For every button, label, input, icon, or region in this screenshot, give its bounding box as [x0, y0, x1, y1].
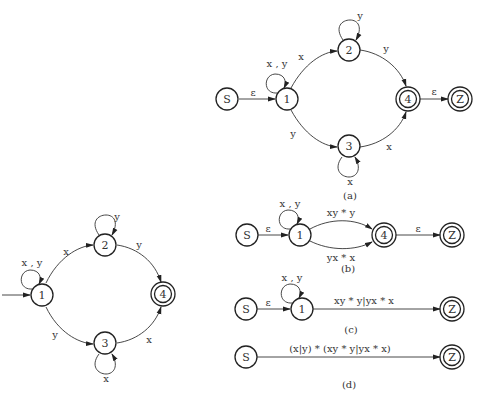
edge-1-4-bottom — [310, 241, 372, 249]
state-3-label: 3 — [346, 140, 353, 153]
edge-1-4-bottom-label: yx * x — [326, 252, 356, 263]
edge-1-2 — [46, 245, 93, 283]
automaton-b: S 1 4 Z ε x , y xy * y yx * x ε (b) — [236, 198, 464, 274]
state-Z-label: Z — [448, 229, 456, 242]
edge-2-4-label: y — [135, 239, 142, 250]
left-automaton: 1 2 3 4 x , y x y y y x x — [2, 211, 175, 384]
edge-2-4 — [360, 50, 406, 86]
caption-c: (c) — [344, 324, 358, 335]
edge-4-Z-label: ε — [431, 86, 436, 97]
state-S-label: S — [243, 229, 251, 242]
edge-S-1-label: ε — [265, 223, 270, 234]
edge-1-2-label: x — [298, 51, 304, 62]
caption-b: (b) — [341, 263, 355, 274]
loop-2-label: y — [113, 211, 120, 222]
state-S-label: S — [223, 93, 231, 106]
edge-1-Z-label: xy * y|yx * x — [334, 295, 394, 307]
loop-1-label: x , y — [280, 198, 301, 209]
loop-3-label: x — [103, 373, 109, 384]
edge-S-Z-label: (x|y) * (xy * y|yx * x) — [289, 343, 391, 355]
edge-1-3 — [291, 110, 337, 147]
loop-3 — [95, 354, 115, 374]
state-S-label: S — [242, 303, 250, 316]
loop-3 — [338, 157, 358, 177]
edge-1-4-top — [310, 221, 372, 229]
loop-2 — [339, 20, 359, 40]
edge-3-4-label: x — [386, 141, 392, 152]
state-4-label: 4 — [405, 93, 412, 106]
loop-1-label: x , y — [22, 257, 43, 268]
loop-3-label: x — [347, 176, 353, 187]
state-3-label: 3 — [102, 337, 109, 350]
edge-1-3-label: y — [51, 329, 58, 340]
caption-d: (d) — [342, 379, 356, 390]
edge-3-4 — [117, 307, 161, 343]
state-Z-label: Z — [448, 351, 456, 364]
loop-1-label: x , y — [267, 58, 288, 69]
edge-1-3-label: y — [289, 128, 296, 139]
state-2-label: 2 — [102, 239, 109, 252]
edge-2-4 — [117, 245, 161, 282]
caption-a: (a) — [343, 190, 357, 201]
automaton-a: S 1 2 3 4 Z ε x , y x y y y x x ε (a) — [216, 10, 472, 201]
automaton-c: S 1 Z ε x , y xy * y|yx * x (c) — [235, 272, 464, 335]
state-1-label: 1 — [39, 289, 46, 302]
state-4-label: 4 — [160, 288, 167, 301]
state-1-label: 1 — [299, 303, 306, 316]
state-Z-label: Z — [448, 303, 456, 316]
state-4-label: 4 — [381, 229, 388, 242]
edge-S-1-label: ε — [265, 297, 270, 308]
edge-1-4-top-label: xy * y — [327, 207, 356, 218]
edge-4-Z-label: ε — [415, 223, 420, 234]
state-S-label: S — [242, 351, 250, 364]
loop-2 — [95, 215, 115, 235]
automaton-d: S Z (x|y) * (xy * y|yx * x) (d) — [235, 343, 464, 390]
edge-S-1-label: ε — [250, 87, 255, 98]
state-1-label: 1 — [284, 93, 291, 106]
edge-1-2-label: x — [63, 246, 69, 257]
loop-1-label: x , y — [282, 272, 303, 283]
edge-3-4 — [360, 112, 406, 147]
state-Z-label: Z — [456, 93, 464, 106]
loop-2-label: y — [356, 10, 363, 21]
state-2-label: 2 — [346, 44, 353, 57]
state-1-label: 1 — [297, 229, 304, 242]
edge-2-4-label: y — [382, 43, 389, 54]
edge-3-4-label: x — [146, 334, 152, 345]
